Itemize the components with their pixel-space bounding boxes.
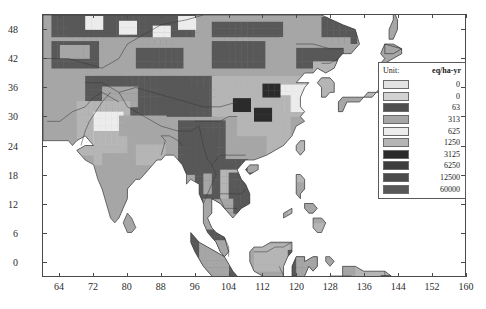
legend-entry: 1250: [383, 137, 461, 149]
y-axis-tick-mark: [43, 262, 47, 263]
x-axis-tick-mark: [127, 273, 128, 277]
x-axis-tick-mark: [330, 273, 331, 277]
y-axis-tick-mark-right: [461, 29, 465, 30]
y-axis-tick-label: 36: [8, 82, 18, 93]
x-axis-tick-mark-top: [127, 14, 128, 18]
x-axis-tick-label: 160: [459, 281, 474, 292]
legend-color-swatch: [383, 138, 409, 147]
x-axis-tick-mark-top: [161, 14, 162, 18]
legend-entry: 12500: [383, 172, 461, 184]
legend-box: Unit: eq/ha-yr 0063313625125031256250125…: [378, 62, 466, 199]
legend-unit-label: Unit:: [383, 66, 399, 75]
y-axis-tick-mark: [43, 58, 47, 59]
legend-value-label: 625: [409, 127, 461, 136]
x-axis-tick-label: 136: [357, 281, 372, 292]
legend-entry: 0: [383, 91, 461, 103]
legend-unit-value: eq/ha-yr: [432, 66, 461, 75]
legend-value-label: 63: [409, 103, 461, 112]
x-axis-tick-mark: [59, 273, 60, 277]
x-axis-tick-mark-top: [466, 14, 467, 18]
x-axis-tick-mark-top: [195, 14, 196, 18]
y-axis-tick-label: 0: [13, 257, 18, 268]
y-axis-tick-label: 48: [8, 23, 18, 34]
legend-color-swatch: [383, 150, 409, 159]
x-axis-tick-mark: [229, 273, 230, 277]
legend-color-swatch: [383, 161, 409, 170]
x-axis-tick-mark-top: [432, 14, 433, 18]
legend-entry: 3125: [383, 149, 461, 161]
y-axis-tick-mark-right: [461, 58, 465, 59]
x-axis-tick-mark-top: [59, 14, 60, 18]
y-axis-tick-label: 6: [13, 228, 18, 239]
deposition-map-figure: Unit: eq/ha-yr 0063313625125031256250125…: [0, 0, 486, 309]
y-axis-tick-label: 18: [8, 169, 18, 180]
x-axis-tick-label: 152: [425, 281, 440, 292]
x-axis-tick-mark-top: [93, 14, 94, 18]
y-axis-tick-label: 24: [8, 140, 18, 151]
y-axis-tick-mark: [43, 116, 47, 117]
x-axis-tick-label: 120: [289, 281, 304, 292]
legend-color-swatch: [383, 115, 409, 124]
x-axis-tick-mark-top: [262, 14, 263, 18]
x-axis-tick-mark: [161, 273, 162, 277]
x-axis-tick-mark: [195, 273, 196, 277]
legend-entry: 625: [383, 125, 461, 137]
legend-value-label: 6250: [409, 161, 461, 170]
legend-value-label: 313: [409, 115, 461, 124]
x-axis-tick-mark-top: [296, 14, 297, 18]
x-axis-tick-label: 88: [156, 281, 166, 292]
x-axis-tick-mark: [466, 273, 467, 277]
x-axis-tick-label: 72: [88, 281, 98, 292]
y-axis-tick-mark: [43, 233, 47, 234]
x-axis-tick-label: 128: [323, 281, 338, 292]
legend-color-swatch: [383, 127, 409, 136]
x-axis-tick-mark-top: [330, 14, 331, 18]
x-axis-tick-label: 112: [255, 281, 270, 292]
x-axis-tick-mark-top: [229, 14, 230, 18]
x-axis-tick-mark: [398, 273, 399, 277]
x-axis-tick-mark: [432, 273, 433, 277]
legend-value-label: 0: [409, 92, 461, 101]
legend-header: Unit: eq/ha-yr: [383, 66, 461, 78]
x-axis-tick-label: 64: [54, 281, 64, 292]
legend-entry-list: 00633136251250312562501250060000: [383, 79, 461, 195]
legend-entry: 313: [383, 114, 461, 126]
legend-value-label: 3125: [409, 150, 461, 159]
x-axis-tick-mark: [262, 273, 263, 277]
x-axis-tick-label: 144: [391, 281, 406, 292]
legend-color-swatch: [383, 80, 409, 89]
x-axis-tick-mark: [296, 273, 297, 277]
y-axis-tick-mark: [43, 146, 47, 147]
legend-value-label: 12500: [409, 173, 461, 182]
y-axis-tick-mark: [43, 204, 47, 205]
legend-value-label: 0: [409, 80, 461, 89]
legend-color-swatch: [383, 173, 409, 182]
x-axis-tick-mark-top: [398, 14, 399, 18]
legend-entry: 63: [383, 102, 461, 114]
y-axis-tick-mark: [43, 29, 47, 30]
legend-entry: 0: [383, 79, 461, 91]
y-axis-tick-mark-right: [461, 116, 465, 117]
legend-entry: 6250: [383, 160, 461, 172]
legend-entry: 60000: [383, 183, 461, 195]
y-axis-tick-mark-right: [461, 146, 465, 147]
x-axis-tick-mark: [364, 273, 365, 277]
y-axis-tick-label: 42: [8, 52, 18, 63]
y-axis-tick-mark-right: [461, 175, 465, 176]
y-axis-tick-label: 30: [8, 111, 18, 122]
legend-color-swatch: [383, 103, 409, 112]
y-axis-tick-mark-right: [461, 262, 465, 263]
legend-color-swatch: [383, 185, 409, 194]
legend-color-swatch: [383, 92, 409, 101]
x-axis-tick-label: 104: [221, 281, 236, 292]
x-axis-tick-mark: [93, 273, 94, 277]
y-axis-tick-mark: [43, 175, 47, 176]
y-axis-tick-mark-right: [461, 87, 465, 88]
x-axis-tick-label: 96: [190, 281, 200, 292]
y-axis-tick-mark: [43, 87, 47, 88]
y-axis-tick-mark-right: [461, 233, 465, 234]
x-axis-tick-label: 80: [122, 281, 132, 292]
legend-value-label: 60000: [409, 185, 461, 194]
y-axis-tick-label: 12: [8, 198, 18, 209]
legend-value-label: 1250: [409, 138, 461, 147]
